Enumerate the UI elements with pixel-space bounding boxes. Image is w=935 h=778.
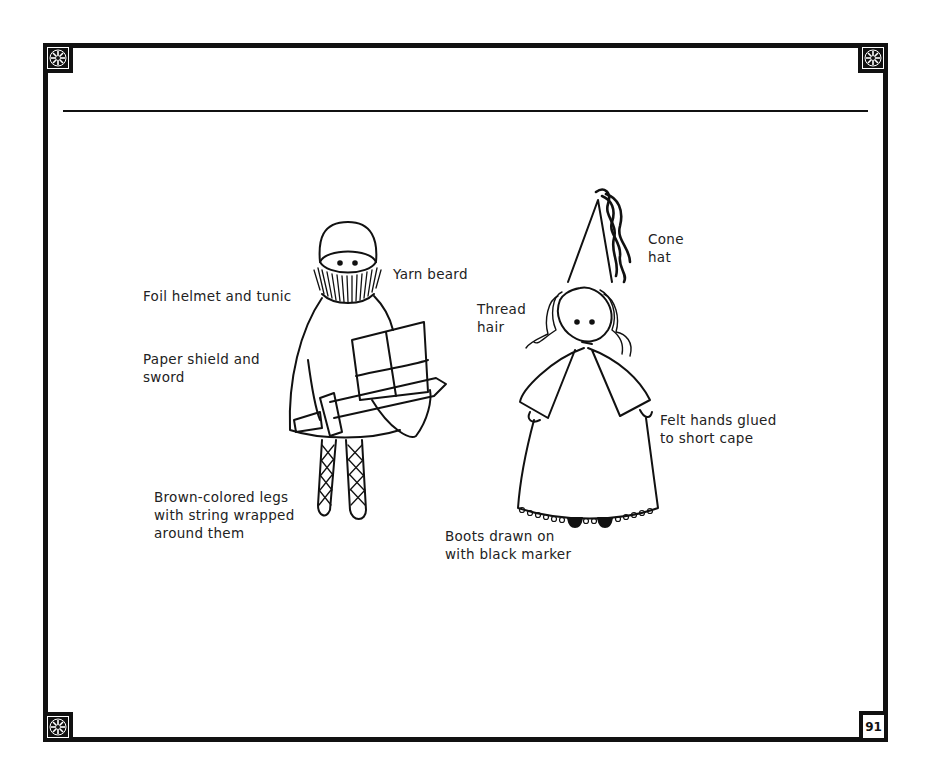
lady-figure [518,190,658,527]
label-felt-hands-line1: Felt hands glued [660,411,777,429]
label-boots-line2: with black marker [445,545,571,563]
label-foil-helmet: Foil helmet and tunic [143,287,292,305]
puppet-illustrations [0,0,935,778]
label-paper-shield-line2: sword [143,368,185,386]
label-thread-hair-line2: hair [477,318,504,336]
label-cone-hat-line2: hat [648,248,671,266]
label-cone-hat-line1: Cone [648,230,684,248]
label-paper-shield-line1: Paper shield and [143,350,260,368]
label-yarn-beard: Yarn beard [393,265,468,283]
label-boots-line1: Boots drawn on [445,527,555,545]
label-legs-line1: Brown-colored legs [154,488,288,506]
label-thread-hair-line1: Thread [477,300,526,318]
label-felt-hands-line2: to short cape [660,429,753,447]
label-legs-line3: around them [154,524,244,542]
label-legs-line2: with string wrapped [154,506,295,524]
